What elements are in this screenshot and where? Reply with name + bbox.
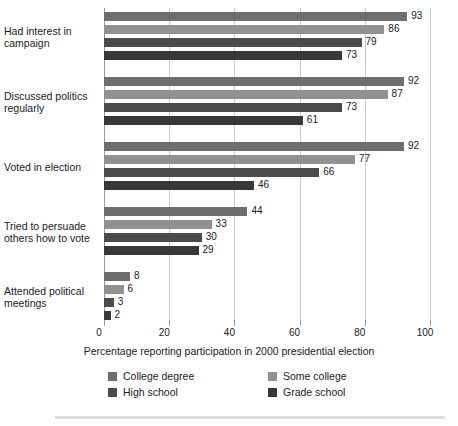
bar-group: 92776646 [104,142,430,194]
bar [104,285,124,294]
bar-group: 8632 [104,272,430,324]
bar [104,298,114,307]
bar-row: 93 [104,12,430,21]
bar-value-label: 66 [323,165,334,179]
plot-area: 938679739287736192776646443330298632 [104,8,430,320]
category-label-line: others how to vote [4,232,100,245]
bar [104,168,319,177]
bar-row: 66 [104,168,430,177]
category-label-line: Discussed politics [4,90,100,103]
bar [104,311,111,320]
bar-row: 73 [104,51,430,60]
bar-value-label: 46 [258,178,269,192]
bar [104,12,407,21]
bar-row: 29 [104,246,430,255]
category-label-line: Voted in election [4,161,100,174]
x-tick-label: 100 [410,326,440,339]
bar-value-label: 86 [388,22,399,36]
x-axis: 020406080100 [104,320,430,342]
bar-value-label: 87 [392,87,403,101]
category-axis-labels: Had interest incampaignDiscussed politic… [0,8,100,320]
footer-divider [55,416,445,419]
bar-group: 44333029 [104,207,430,259]
x-axis-title: Percentage reporting participation in 20… [0,345,458,357]
bar-value-label: 29 [203,243,214,257]
bar-row: 77 [104,155,430,164]
bar-row: 6 [104,285,430,294]
chart-legend: College degreeSome collegeHigh schoolGra… [108,369,408,401]
bar [104,220,212,229]
legend-item: Some college [268,369,347,383]
category-label-line: campaign [4,37,100,50]
bar-row: 79 [104,38,430,47]
bar-value-label: 30 [206,230,217,244]
category-label: Tried to persuadeothers how to vote [4,220,100,245]
x-tick-label: 80 [345,326,375,339]
bar-value-label: 79 [366,35,377,49]
x-tick-label: 60 [280,326,310,339]
bar-row: 87 [104,90,430,99]
bar [104,103,342,112]
bar-value-label: 61 [307,113,318,127]
legend-swatch [268,388,277,397]
category-label: Attended politicalmeetings [4,285,100,310]
legend-swatch [108,388,117,397]
bar-value-label: 77 [359,152,370,166]
bar [104,272,130,281]
category-label-line: Tried to persuade [4,220,100,233]
bar-group: 93867973 [104,12,430,64]
legend-label: Some college [283,370,347,383]
category-label-line: meetings [4,297,100,310]
gridline-100 [430,8,431,320]
bar-value-label: 33 [216,217,227,231]
bar-row: 30 [104,233,430,242]
bar [104,155,355,164]
bar [104,90,388,99]
legend-item: Grade school [268,385,345,399]
bar-row: 3 [104,298,430,307]
bar-row: 92 [104,142,430,151]
legend-label: College degree [123,370,194,383]
bar-value-label: 73 [346,100,357,114]
bar-row: 92 [104,77,430,86]
x-tick-label: 20 [149,326,179,339]
bar [104,142,404,151]
bar [104,116,303,125]
bar-value-label: 6 [128,282,134,296]
legend-item: High school [108,385,178,399]
bar-value-label: 3 [118,295,124,309]
bar-value-label: 93 [411,9,422,23]
bar-row: 33 [104,220,430,229]
category-label-line: Attended political [4,285,100,298]
bar-chart-figure: Had interest incampaignDiscussed politic… [0,0,458,426]
bar-value-label: 8 [134,269,140,283]
bar-value-label: 92 [408,139,419,153]
category-label-line: Had interest in [4,25,100,38]
bar-row: 86 [104,25,430,34]
bar-row: 2 [104,311,430,320]
bar [104,181,254,190]
bar-row: 8 [104,272,430,281]
bar-row: 61 [104,116,430,125]
x-tick-label: 40 [214,326,244,339]
bar [104,25,384,34]
category-label: Discussed politicsregularly [4,90,100,115]
bar-row: 46 [104,181,430,190]
category-label: Voted in election [4,161,100,174]
bar [104,51,342,60]
bar [104,38,362,47]
bar-value-label: 92 [408,74,419,88]
x-tick-label: 0 [84,326,114,339]
legend-swatch [268,372,277,381]
category-label-line: regularly [4,102,100,115]
legend-item: College degree [108,369,194,383]
bar [104,77,404,86]
bar-value-label: 73 [346,48,357,62]
bar [104,246,199,255]
category-label: Had interest incampaign [4,25,100,50]
bar-row: 73 [104,103,430,112]
bar-group: 92877361 [104,77,430,129]
bar-row: 44 [104,207,430,216]
bar [104,207,247,216]
bar-value-label: 44 [251,204,262,218]
